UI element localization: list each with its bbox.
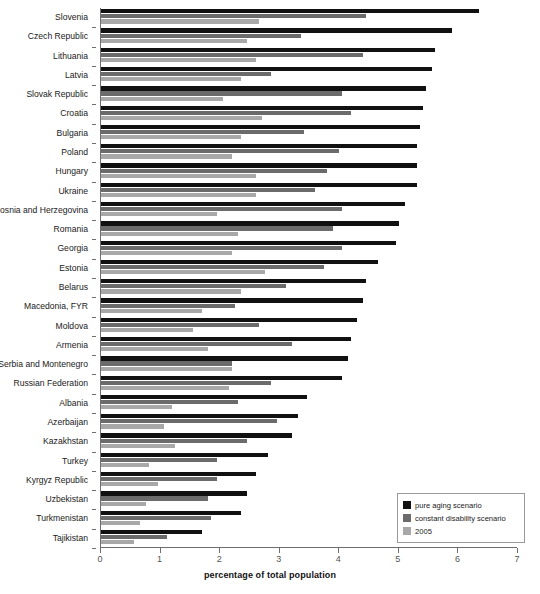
- bar-group: [101, 182, 517, 201]
- bar: [101, 265, 324, 269]
- bar: [101, 337, 351, 341]
- x-axis-tick: [398, 548, 399, 553]
- category-label: Moldova: [56, 317, 88, 336]
- category-tick: [92, 548, 96, 549]
- bar: [101, 67, 432, 71]
- category-label: Kazakhstan: [43, 432, 88, 451]
- category-tick: [92, 297, 96, 298]
- bar: [101, 381, 271, 385]
- category-label: Kyrgyz Republic: [26, 471, 88, 490]
- bar: [101, 279, 366, 283]
- category-label: Romania: [54, 220, 88, 239]
- bar: [101, 19, 259, 23]
- category-tick: [92, 124, 96, 125]
- category-tick: [92, 394, 96, 395]
- bar: [101, 97, 223, 101]
- bar: [101, 149, 339, 153]
- bar-group: [101, 85, 517, 104]
- bar: [101, 439, 247, 443]
- category-label: Slovenia: [55, 8, 88, 27]
- bar: [101, 304, 235, 308]
- bar: [101, 419, 277, 423]
- bar-rows: [101, 8, 517, 547]
- category-label: Georgia: [57, 239, 88, 258]
- x-axis-tick: [338, 548, 339, 553]
- bar: [101, 246, 342, 250]
- category-tick: [92, 239, 96, 240]
- x-axis-tick: [457, 548, 458, 553]
- plot-area: [100, 8, 517, 548]
- bar: [101, 535, 167, 539]
- bar: [101, 232, 238, 236]
- category-tick: [92, 336, 96, 337]
- bar: [101, 496, 208, 500]
- x-axis-tick-label: 7: [514, 554, 519, 564]
- bar: [101, 502, 146, 506]
- category-tick: [92, 490, 96, 491]
- category-label: Armenia: [56, 336, 88, 355]
- bar-group: [101, 201, 517, 220]
- bar: [101, 207, 342, 211]
- bar: [101, 361, 232, 365]
- bar: [101, 516, 211, 520]
- bar: [101, 174, 256, 178]
- bar: [101, 433, 292, 437]
- bar-group: [101, 239, 517, 258]
- bar: [101, 58, 256, 62]
- bar: [101, 53, 363, 57]
- x-axis-tick: [517, 548, 518, 553]
- category-label: Belarus: [59, 278, 88, 297]
- bar-group: [101, 336, 517, 355]
- x-axis-tick-label: 5: [395, 554, 400, 564]
- bar-group: [101, 278, 517, 297]
- category-tick: [92, 143, 96, 144]
- bar: [101, 477, 217, 481]
- x-axis-tick-label: 2: [217, 554, 222, 564]
- bar: [101, 260, 378, 264]
- bar: [101, 135, 241, 139]
- bar: [101, 405, 172, 409]
- x-axis-tick: [219, 548, 220, 553]
- category-label: Czech Republic: [28, 27, 88, 46]
- bar: [101, 212, 217, 216]
- bar: [101, 163, 417, 167]
- legend-swatch-constant-disability: [403, 514, 411, 522]
- bar: [101, 144, 417, 148]
- bar: [101, 491, 247, 495]
- bar-group: [101, 47, 517, 66]
- bar-group: [101, 220, 517, 239]
- bar: [101, 540, 134, 544]
- category-label: Serbia and Montenegro: [0, 355, 88, 374]
- bar: [101, 130, 304, 134]
- bar: [101, 342, 292, 346]
- bar-group: [101, 8, 517, 27]
- bar-group: [101, 297, 517, 316]
- bar: [101, 453, 268, 457]
- x-axis-tick: [100, 548, 101, 553]
- bar: [101, 376, 342, 380]
- bar-group: [101, 355, 517, 374]
- bar-group: [101, 432, 517, 451]
- legend-item: pure aging scenario: [403, 499, 519, 511]
- bar: [101, 251, 232, 255]
- category-label: Slovak Republic: [26, 85, 88, 104]
- bar: [101, 86, 426, 90]
- bar: [101, 444, 175, 448]
- category-tick: [92, 85, 96, 86]
- bar-group: [101, 471, 517, 490]
- category-label: Turkmenistan: [36, 509, 88, 528]
- category-tick: [92, 104, 96, 105]
- legend-label: pure aging scenario: [415, 501, 482, 510]
- legend-label: constant disability scenario: [415, 514, 506, 523]
- bar: [101, 356, 348, 360]
- bar: [101, 154, 232, 158]
- bar: [101, 458, 217, 462]
- category-tick: [92, 355, 96, 356]
- x-axis-tick: [279, 548, 280, 553]
- bar: [101, 521, 140, 525]
- bar: [101, 72, 271, 76]
- bar-group: [101, 124, 517, 143]
- bar: [101, 386, 229, 390]
- category-tick: [92, 374, 96, 375]
- category-tick: [92, 317, 96, 318]
